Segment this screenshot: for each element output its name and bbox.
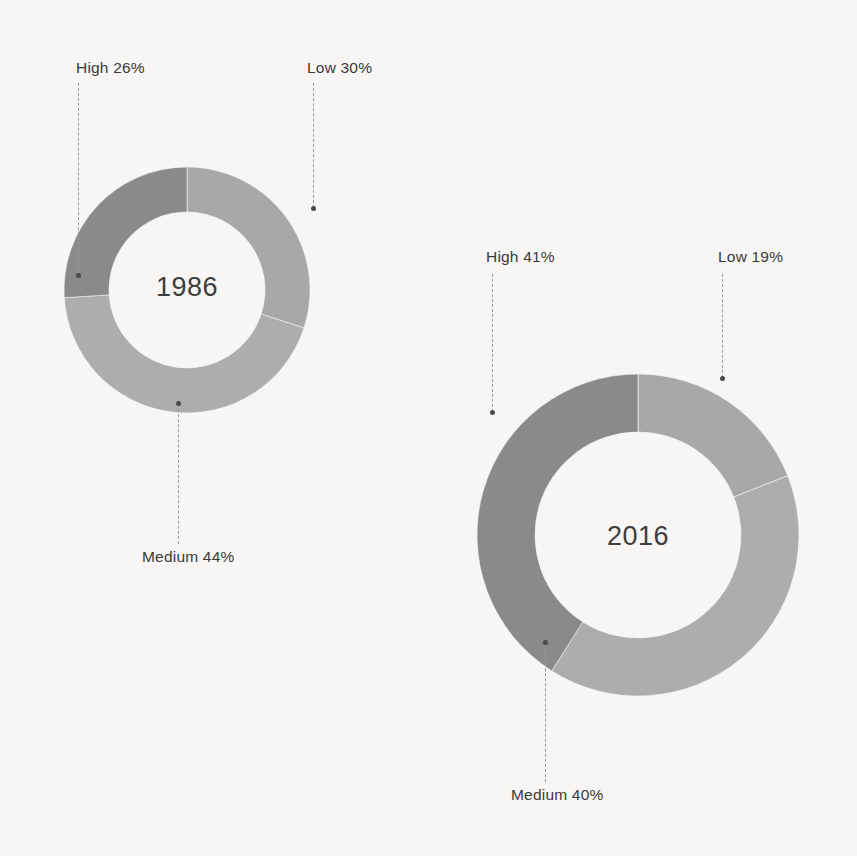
donut-slice-high[interactable] — [477, 374, 638, 671]
leader-dot-medium-2016 — [543, 640, 548, 645]
leader-dot-medium-1986 — [176, 401, 181, 406]
donut-slice-medium[interactable] — [552, 476, 799, 696]
leader-line-low-1986 — [313, 83, 314, 208]
callout-medium-1986: Medium 44% — [142, 548, 234, 566]
donut-1986 — [0, 0, 430, 600]
donut-chart-figure: 1986 High 26% Low 30% Medium 44% 2016 Hi… — [0, 0, 857, 856]
donut-slice-low[interactable] — [187, 167, 310, 328]
donut-2016 — [430, 230, 857, 850]
donut-2016-slices — [477, 374, 799, 696]
leader-dot-low-1986 — [311, 206, 316, 211]
chart-1986: 1986 High 26% Low 30% Medium 44% — [0, 0, 430, 600]
leader-line-medium-2016 — [545, 643, 546, 782]
leader-line-medium-1986 — [178, 404, 179, 544]
leader-dot-high-1986 — [76, 273, 81, 278]
callout-low-2016: Low 19% — [718, 248, 783, 266]
callout-low-1986: Low 30% — [307, 59, 372, 77]
leader-line-low-2016 — [722, 274, 723, 378]
callout-medium-2016: Medium 40% — [511, 786, 603, 804]
chart-2016: 2016 High 41% Low 19% Medium 40% — [430, 230, 857, 850]
donut-slice-high[interactable] — [64, 167, 187, 298]
leader-line-high-1986 — [78, 83, 79, 275]
callout-high-1986: High 26% — [76, 59, 145, 77]
donut-slice-low[interactable] — [638, 374, 788, 497]
leader-dot-high-2016 — [490, 410, 495, 415]
leader-dot-low-2016 — [720, 376, 725, 381]
leader-line-high-2016 — [492, 274, 493, 412]
donut-1986-slices — [64, 167, 310, 413]
callout-high-2016: High 41% — [486, 248, 555, 266]
